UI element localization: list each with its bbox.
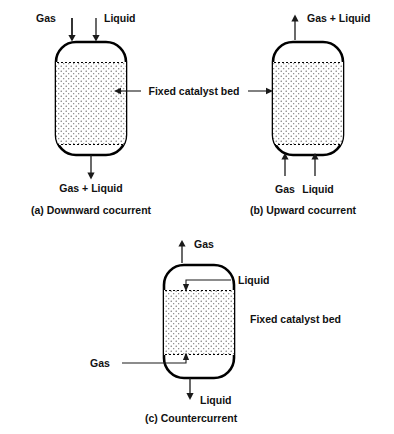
figure-root: Gas Liquid Gas + Liquid (a) Downward coc…	[0, 0, 394, 434]
panel-c-liquid-inlet-label: Liquid	[238, 274, 270, 286]
panel-b-liquid-inlet-label: Liquid	[302, 183, 334, 195]
panel-a-gas-inlet-label: Gas	[36, 12, 56, 24]
panel-b-caption: (b) Upward cocurrent	[250, 204, 357, 216]
panel-a-outlet-label: Gas + Liquid	[59, 182, 122, 194]
panel-c-catalyst-bed	[164, 290, 234, 355]
fixed-catalyst-bed-label: Fixed catalyst bed	[148, 85, 239, 97]
panel-c-caption: (c) Countercurrent	[145, 412, 238, 424]
panel-a-catalyst-bed	[56, 62, 126, 145]
panel-c-bed-label: Fixed catalyst bed	[250, 313, 341, 325]
panel-b-outlet-label: Gas + Liquid	[307, 12, 370, 24]
panel-c-gas-inlet-label: Gas	[90, 357, 110, 369]
panel-b-gas-inlet-label: Gas	[275, 183, 295, 195]
panel-b-catalyst-bed	[273, 62, 343, 145]
panel-c-gas-outlet-label: Gas	[194, 238, 214, 250]
panel-c-liquid-outlet-label: Liquid	[200, 394, 232, 406]
panel-a-liquid-inlet-label: Liquid	[104, 12, 136, 24]
reactor-configurations-diagram: Gas Liquid Gas + Liquid (a) Downward coc…	[0, 0, 394, 434]
panel-a-caption: (a) Downward cocurrent	[31, 204, 152, 216]
